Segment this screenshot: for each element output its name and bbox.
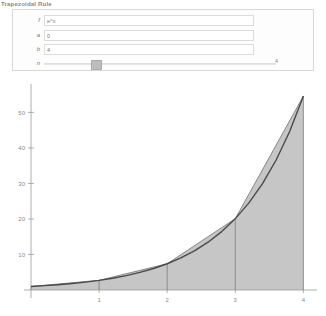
control-row-function: f e^x (13, 15, 313, 28)
subintervals-label: n (30, 58, 40, 69)
upper-bound-label: b (30, 44, 40, 55)
svg-text:1: 1 (97, 297, 101, 303)
svg-text:3: 3 (234, 297, 238, 303)
lower-bound-label: a (30, 30, 40, 41)
subintervals-value: 4 (275, 57, 278, 66)
trapezoidal-rule-app: Trapezoidal Rule f e^x a 0 b 4 n 4 (0, 0, 326, 316)
function-input-value: e^x (47, 16, 55, 26)
upper-bound-input-value: 4 (47, 45, 50, 55)
lower-bound-input-value: 0 (47, 31, 50, 41)
lower-bound-input[interactable]: 0 (44, 30, 254, 41)
svg-text:20: 20 (18, 216, 25, 222)
control-panel: f e^x a 0 b 4 n 4 (12, 9, 314, 71)
trapezoid-fill (31, 96, 303, 290)
upper-bound-input[interactable]: 4 (44, 44, 254, 55)
svg-text:30: 30 (18, 181, 25, 187)
svg-text:40: 40 (18, 145, 25, 151)
control-row-subintervals: n 4 (13, 58, 313, 71)
integral-plot: 10203040501234 (4, 76, 322, 312)
subintervals-slider[interactable] (44, 63, 276, 65)
function-label: f (30, 15, 40, 26)
plot-svg: 10203040501234 (4, 76, 322, 312)
svg-text:50: 50 (18, 110, 25, 116)
svg-text:10: 10 (18, 252, 25, 258)
control-row-upper-bound: b 4 (13, 44, 313, 57)
function-input[interactable]: e^x (44, 15, 254, 26)
svg-text:2: 2 (166, 297, 170, 303)
page-title: Trapezoidal Rule (1, 0, 52, 8)
slider-thumb[interactable] (91, 60, 102, 70)
svg-text:4: 4 (302, 297, 306, 303)
control-row-lower-bound: a 0 (13, 30, 313, 43)
